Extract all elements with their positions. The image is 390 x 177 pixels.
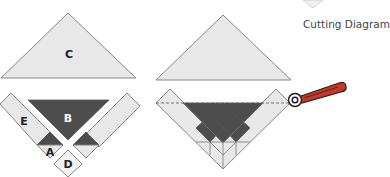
right-diagram [156, 15, 346, 169]
label-e: E [20, 115, 28, 128]
partial-piece-top [303, 0, 323, 8]
label-c: C [65, 48, 73, 61]
rotary-cutter-icon [289, 82, 347, 106]
label-a: A [46, 146, 55, 159]
right-triangle-top [156, 15, 291, 80]
piece-c [1, 13, 136, 78]
label-d: D [63, 158, 72, 171]
left-diagram: C B E A D [0, 13, 140, 177]
piece-a-right [73, 145, 99, 158]
diagram-caption: Cutting Diagram [303, 18, 390, 30]
label-b: B [64, 112, 72, 125]
